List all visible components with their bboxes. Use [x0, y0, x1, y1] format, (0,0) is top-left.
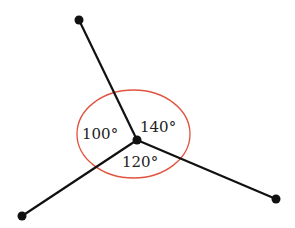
endpoint-bottom-right: [272, 195, 281, 204]
angle-label-120: 120°: [122, 153, 158, 171]
segment-bottom-left: [22, 140, 137, 216]
diagram-canvas: 100° 140° 120°: [0, 0, 295, 228]
angles-diagram: 100° 140° 120°: [0, 0, 295, 228]
endpoint-top: [75, 16, 84, 25]
angle-label-140: 140°: [140, 118, 176, 136]
angle-label-100: 100°: [82, 125, 118, 143]
endpoint-bottom-left: [18, 212, 27, 221]
segment-top: [79, 20, 137, 140]
center-point: [133, 136, 142, 145]
